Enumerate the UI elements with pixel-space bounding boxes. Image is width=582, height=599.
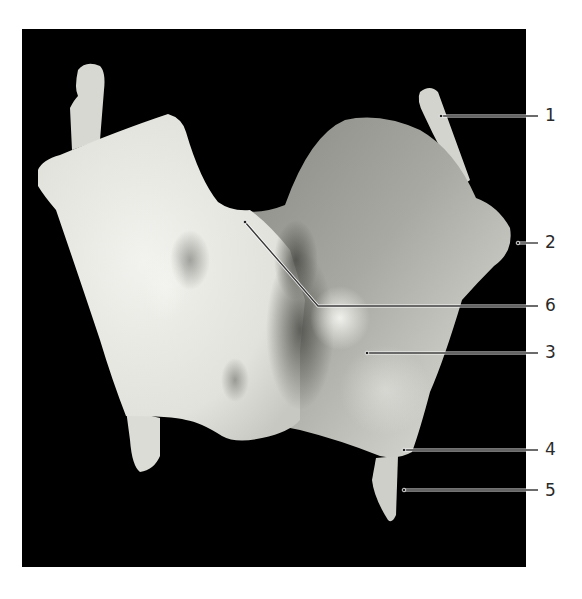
light-spot	[310, 286, 370, 350]
label-5: 5	[545, 482, 556, 499]
label-4: 4	[545, 441, 556, 458]
label-6: 6	[545, 297, 556, 314]
shadow-mid	[274, 220, 318, 300]
left-shadow-low	[221, 358, 249, 402]
label-3: 3	[545, 344, 556, 361]
label-2: 2	[545, 234, 556, 251]
light-spot-left	[143, 249, 187, 321]
label-1: 1	[545, 107, 556, 124]
lower-right-light	[340, 345, 430, 435]
anatomical-figure	[0, 0, 582, 599]
